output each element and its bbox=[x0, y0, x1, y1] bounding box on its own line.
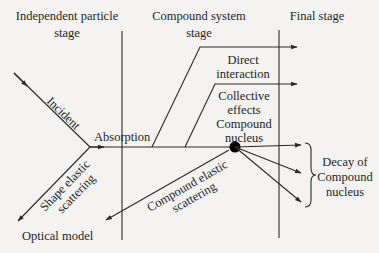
stage-header-compound-line2: stage bbox=[186, 26, 212, 40]
stage-header-independent-line1: Independent particle bbox=[16, 9, 119, 23]
decay-arrow-3 bbox=[235, 147, 301, 202]
decay-brace bbox=[305, 143, 316, 207]
decay-label-line2: Compound bbox=[317, 170, 373, 184]
decay-label-line3: nucleus bbox=[326, 185, 364, 199]
reaction-stages-diagram: Independent particle stage Compound syst… bbox=[0, 0, 379, 253]
collective-label-line4: nucleus bbox=[225, 131, 263, 145]
collective-label-line1: Collective bbox=[218, 89, 270, 103]
stage-header-independent-line2: stage bbox=[54, 26, 80, 40]
optical-model-label: Optical model bbox=[22, 229, 94, 243]
stage-header-final: Final stage bbox=[290, 9, 345, 23]
collective-label-line3: Compound bbox=[216, 117, 272, 131]
stage-header-compound-line1: Compound system bbox=[152, 9, 246, 23]
decay-arrow-1 bbox=[235, 145, 301, 147]
direct-label-line1: Direct bbox=[227, 53, 259, 67]
direct-label-line2: interaction bbox=[216, 67, 270, 81]
decay-arrow-2 bbox=[235, 147, 301, 173]
collective-label-line2: effects bbox=[227, 103, 260, 117]
decay-label-line1: Decay of bbox=[322, 155, 368, 169]
incident-label: Incident bbox=[44, 94, 84, 133]
incident-arrow-icon bbox=[14, 73, 27, 86]
absorption-label: Absorption bbox=[94, 130, 151, 144]
